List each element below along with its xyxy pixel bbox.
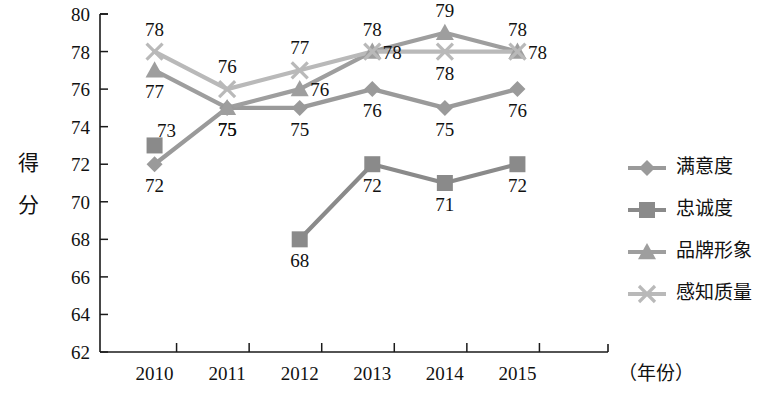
data-label: 77 xyxy=(145,81,164,102)
legend-item-2[interactable]: 忠诚度 xyxy=(628,198,733,219)
data-label: 75 xyxy=(290,119,309,140)
marker-square xyxy=(292,231,308,247)
line-chart: 得 分 62646668707274767880 201020112012201… xyxy=(0,0,767,396)
x-axis-caption: （年份） xyxy=(618,363,694,384)
y-axis-label-char-1: 得 xyxy=(18,151,39,175)
y-tick-label: 78 xyxy=(71,42,90,63)
data-label-group: 7275757675767368727172777576787978787677… xyxy=(145,0,547,271)
x-tick-group xyxy=(177,343,540,352)
data-label: 68 xyxy=(290,250,309,271)
legend-label: 品牌形象 xyxy=(676,240,752,261)
marker-triangle xyxy=(146,61,164,77)
series-line-square xyxy=(300,164,518,239)
data-label: 72 xyxy=(363,175,382,196)
y-tick-label: 62 xyxy=(71,342,90,363)
data-label: 77 xyxy=(290,37,309,58)
y-axis-label: 得 分 xyxy=(18,151,39,217)
y-axis-label-char-2: 分 xyxy=(18,193,39,217)
y-tick-label: 70 xyxy=(71,192,90,213)
marker-diamond xyxy=(364,81,380,97)
x-tick-label: 2015 xyxy=(498,363,536,384)
marker-square xyxy=(509,156,525,172)
x-tick-label: 2012 xyxy=(281,363,319,384)
y-tick-label: 64 xyxy=(71,304,91,325)
series-lines-group xyxy=(155,33,518,240)
x-tick-label: 2013 xyxy=(353,363,391,384)
x-tick-label-group: 201020112012201320142015 xyxy=(136,363,537,384)
marker-diamond xyxy=(639,160,655,176)
legend-label: 感知质量 xyxy=(676,282,752,303)
marker-square xyxy=(437,175,453,191)
y-tick-group xyxy=(100,14,108,352)
data-label: 78 xyxy=(435,63,454,84)
data-label: 78 xyxy=(383,42,402,63)
legend-label: 忠诚度 xyxy=(676,198,733,219)
legend-item-4[interactable]: 感知质量 xyxy=(628,282,752,303)
data-label: 75 xyxy=(218,119,237,140)
data-label: 73 xyxy=(157,120,176,141)
marker-diamond xyxy=(437,100,453,116)
x-tick-label: 2010 xyxy=(136,363,174,384)
legend: 满意度忠诚度品牌形象感知质量 xyxy=(628,156,752,303)
data-label: 78 xyxy=(528,42,547,63)
marker-triangle xyxy=(436,24,454,40)
y-tick-label-group: 62646668707274767880 xyxy=(71,4,91,363)
legend-label: 满意度 xyxy=(676,156,733,177)
data-label: 76 xyxy=(310,79,329,100)
legend-item-3[interactable]: 品牌形象 xyxy=(628,240,752,261)
y-tick-label: 66 xyxy=(71,267,90,288)
x-tick-label: 2011 xyxy=(208,363,245,384)
data-label: 76 xyxy=(508,100,527,121)
y-tick-label: 72 xyxy=(71,154,90,175)
data-label: 78 xyxy=(508,19,527,40)
data-label: 76 xyxy=(218,56,237,77)
data-label: 71 xyxy=(435,194,454,215)
data-label: 78 xyxy=(363,19,382,40)
y-tick-label: 80 xyxy=(71,4,90,25)
y-tick-label: 68 xyxy=(71,229,90,250)
marker-square xyxy=(639,202,655,218)
data-label: 72 xyxy=(508,175,527,196)
data-label: 75 xyxy=(435,119,454,140)
y-tick-label: 76 xyxy=(71,79,90,100)
data-label: 79 xyxy=(435,0,454,21)
y-tick-label: 74 xyxy=(71,117,91,138)
x-tick-label: 2014 xyxy=(426,363,465,384)
marker-cross xyxy=(147,44,163,60)
series-markers-group xyxy=(146,24,527,248)
data-label: 72 xyxy=(145,175,164,196)
marker-diamond xyxy=(292,100,308,116)
marker-diamond xyxy=(509,81,525,97)
data-label: 76 xyxy=(363,100,382,121)
chart-container: 得 分 62646668707274767880 201020112012201… xyxy=(0,0,767,396)
data-label: 78 xyxy=(145,19,164,40)
legend-item-1[interactable]: 满意度 xyxy=(628,156,733,177)
marker-square xyxy=(364,156,380,172)
